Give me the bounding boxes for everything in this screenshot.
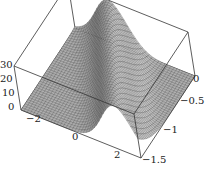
x-axis-tick-label: −2 <box>26 114 41 124</box>
x-axis-tick-label: 2 <box>114 150 120 160</box>
y-axis-tick-label: −0.5 <box>180 96 204 106</box>
z-axis-tick-label: 30 <box>0 60 13 70</box>
box-edge <box>188 32 195 76</box>
y-axis-tick-label: −1.5 <box>142 155 166 165</box>
y-axis-tick-label: 0 <box>193 74 199 84</box>
y-axis-tick-label: −1 <box>163 125 178 135</box>
z-axis-tick-label: 20 <box>0 74 13 84</box>
z-axis-tick-label: 10 <box>2 88 15 98</box>
z-axis-tick-label: 0 <box>8 102 14 112</box>
surface-plot <box>0 0 206 175</box>
box-edge <box>14 66 21 110</box>
x-axis-tick-label: 0 <box>72 132 78 142</box>
box-edge <box>68 0 75 28</box>
